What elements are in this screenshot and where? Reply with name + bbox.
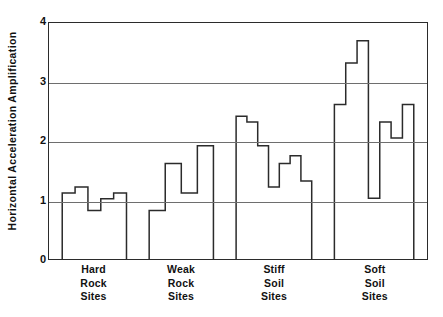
plot-area: [48, 22, 428, 260]
x-group-label-2-line-1: Soil: [234, 277, 314, 291]
bar-group-outline-3: [334, 41, 413, 259]
gridline-1: [49, 202, 427, 203]
x-group-label-3-line-2: Sites: [335, 290, 415, 304]
x-axis-group-labels: HardRockSitesWeakRockSitesStiffSoilSites…: [48, 263, 428, 313]
x-group-label-0-line-1: Rock: [54, 277, 134, 291]
bar-series: [49, 23, 427, 259]
x-group-label-3-line-1: Soil: [335, 277, 415, 291]
amplification-bar-chart: Horizontal Acceleration Amplification 01…: [0, 0, 443, 317]
y-axis-title-text: Horizontal Acceleration Amplification: [6, 32, 18, 231]
x-group-label-0-line-2: Sites: [54, 290, 134, 304]
y-tick-label-2: 2: [30, 135, 46, 146]
x-group-label-1: WeakRockSites: [141, 263, 221, 304]
x-group-label-2: StiffSoilSites: [234, 263, 314, 304]
x-group-label-3: SoftSoilSites: [335, 263, 415, 304]
y-axis-title: Horizontal Acceleration Amplification: [0, 0, 24, 262]
x-group-label-3-line-0: Soft: [335, 263, 415, 277]
x-group-label-0: HardRockSites: [54, 263, 134, 304]
x-group-label-1-line-2: Sites: [141, 290, 221, 304]
x-group-label-2-line-2: Sites: [234, 290, 314, 304]
y-tick-label-3: 3: [30, 76, 46, 87]
x-group-label-1-line-1: Rock: [141, 277, 221, 291]
gridline-3: [49, 83, 427, 84]
y-tick-label-1: 1: [30, 195, 46, 206]
y-tick-label-4: 4: [30, 16, 46, 27]
x-group-label-0-line-0: Hard: [54, 263, 134, 277]
y-tick-label-0: 0: [30, 254, 46, 265]
x-group-label-1-line-0: Weak: [141, 263, 221, 277]
bar-group-outline-0: [62, 187, 126, 259]
y-axis-tick-labels: 01234: [26, 0, 46, 317]
x-group-label-2-line-0: Stiff: [234, 263, 314, 277]
bar-group-outline-2: [236, 116, 312, 259]
gridline-2: [49, 142, 427, 143]
